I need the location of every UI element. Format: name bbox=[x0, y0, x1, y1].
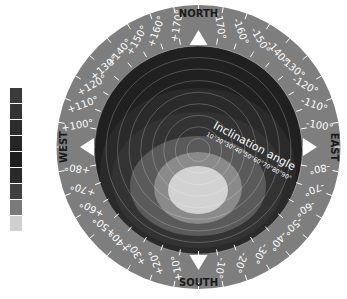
west-label: WEST bbox=[58, 131, 69, 163]
solar-diagram: +10°+20°+30°+40°+50°+60°+70°+80°+100°+11… bbox=[0, 0, 347, 299]
north-label: NORTH bbox=[179, 8, 218, 19]
orientation-chart: +10°+20°+30°+40°+50°+60°+70°+80°+100°+11… bbox=[0, 0, 347, 299]
south-label: SOUTH bbox=[179, 277, 218, 288]
east-label: EAST bbox=[329, 133, 340, 162]
